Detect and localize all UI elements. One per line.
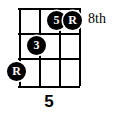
chord-diagram-screen: 5 R 3 R 8th 5	[0, 0, 123, 117]
finger-marker-root-high[interactable]: R	[63, 11, 82, 30]
finger-marker-root-low[interactable]: R	[7, 62, 26, 81]
fret-line-0	[18, 8, 80, 10]
fret-line-3	[18, 86, 80, 88]
position-label: 8th	[88, 11, 106, 27]
fret-number-label: 5	[0, 92, 98, 112]
fret-line-2	[18, 58, 80, 60]
finger-marker-third[interactable]: 3	[27, 36, 46, 55]
fret-line-1	[18, 33, 80, 35]
